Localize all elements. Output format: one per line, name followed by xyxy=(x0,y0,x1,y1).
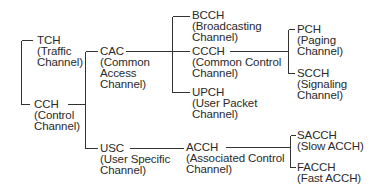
node-label: Channel) xyxy=(186,164,284,175)
node-label: Channel) xyxy=(100,79,150,90)
node-cch: CCH (Control Channel) xyxy=(34,99,80,132)
node-usc: USC (User Specific Channel) xyxy=(100,143,170,176)
node-pch: PCH (Paging Channel) xyxy=(297,24,343,57)
node-acch: ACCH (Associated Control Channel) xyxy=(186,142,284,175)
node-scch: SCCH (Signaling Channel) xyxy=(297,68,347,101)
node-label: (Fast ACCH) xyxy=(297,173,361,184)
node-tch: TCH (Traffic Channel) xyxy=(37,35,83,68)
node-cac: CAC (Common Access Channel) xyxy=(100,46,150,90)
node-label: Channel) xyxy=(34,121,80,132)
node-upch: UPCH (User Packet Channel) xyxy=(192,87,257,120)
node-label: Channel) xyxy=(37,57,83,68)
node-label: Channel) xyxy=(100,165,170,176)
node-sacch: SACCH (Slow ACCH) xyxy=(297,130,364,152)
node-label: Channel) xyxy=(297,46,343,57)
node-label: Channel) xyxy=(192,109,257,120)
node-label: Channel) xyxy=(297,90,347,101)
node-bcch: BCCH (Broadcasting Channel) xyxy=(192,10,262,43)
node-label: (Slow ACCH) xyxy=(297,141,364,152)
node-label: Channel) xyxy=(192,68,281,79)
node-label: Channel) xyxy=(192,32,262,43)
node-ccch: CCCH (Common Control Channel) xyxy=(192,46,281,79)
node-facch: FACCH (Fast ACCH) xyxy=(297,162,361,184)
